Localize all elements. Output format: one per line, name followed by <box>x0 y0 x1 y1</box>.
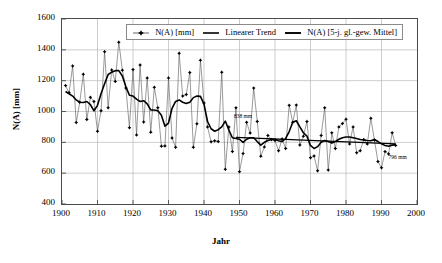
x-tick-1930: 1930 <box>148 209 188 218</box>
legend-marker-line-with-points <box>132 29 150 37</box>
annotation-838mm: 838 mm <box>234 113 252 119</box>
legend-entry-smoothed: N(A) [5-j. gl.-gew. Mittel] <box>284 28 397 37</box>
x-tick-2000: 2000 <box>396 209 436 218</box>
x-tick-1920: 1920 <box>112 209 152 218</box>
x-tick-1990: 1990 <box>361 209 401 218</box>
legend-entry-raw: N(A) [mm] <box>132 28 194 37</box>
x-tick-1970: 1970 <box>290 209 330 218</box>
raw-series-markers <box>64 40 398 173</box>
annotation-796mm: 796 mm <box>389 154 407 160</box>
chart-canvas <box>62 19 417 204</box>
x-tick-1980: 1980 <box>325 209 365 218</box>
legend-marker-thick-line <box>284 29 302 37</box>
x-tick-1950: 1950 <box>219 209 259 218</box>
precipitation-timeseries-chart: N(A) [mm] Jahr 4006008001000120014001600… <box>0 0 442 263</box>
legend-label-raw: N(A) [mm] <box>155 27 194 37</box>
legend-marker-line <box>202 29 220 37</box>
x-tick-1900: 1900 <box>41 209 81 218</box>
x-tick-1910: 1910 <box>77 209 117 218</box>
x-tick-1940: 1940 <box>183 209 223 218</box>
gridlines <box>62 19 417 204</box>
legend-label-smoothed: N(A) [5-j. gl.-gew. Mittel] <box>307 27 397 37</box>
plot-area <box>61 18 418 205</box>
chart-legend: N(A) [mm] Linearer Trend N(A) [5-j. gl.-… <box>126 24 403 40</box>
legend-label-trend: Linearer Trend <box>225 27 276 37</box>
x-tick-1960: 1960 <box>254 209 294 218</box>
legend-entry-trend: Linearer Trend <box>202 28 276 37</box>
